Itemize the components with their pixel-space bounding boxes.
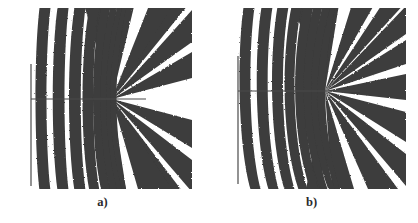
fringe-pattern-svg-b [228,8,406,189]
figure-root: a) [0,0,418,223]
figure-panel-b: b) [205,0,418,223]
panel-caption-a: a) [0,196,205,209]
panel-caption-b: b) [205,196,418,209]
fringe-pattern-svg-a [22,8,192,189]
fringe-plot-a [22,8,192,189]
figure-panel-a: a) [0,0,205,223]
fringe-plot-b [228,8,406,189]
